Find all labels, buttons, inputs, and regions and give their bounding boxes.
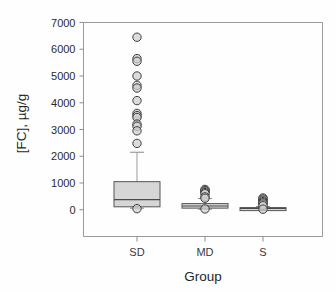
outlier-point-s — [259, 205, 267, 213]
y-tick-label: 0 — [69, 204, 75, 216]
x-tick-label-md: MD — [196, 246, 213, 258]
x-tick-label-s: S — [259, 246, 266, 258]
outlier-point-sd — [133, 96, 141, 104]
y-axis-title: [FC], µg/g — [14, 94, 29, 154]
x-tick-label-sd: SD — [129, 246, 144, 258]
outlier-point-sd — [133, 127, 141, 135]
outlier-point-sd — [133, 72, 141, 80]
y-tick-label: 6000 — [51, 43, 75, 55]
y-tick-label: 5000 — [51, 70, 75, 82]
outlier-point-md — [201, 205, 209, 213]
outlier-point-md — [201, 194, 209, 202]
outlier-point-sd — [133, 84, 141, 92]
y-tick-label: 4000 — [51, 97, 75, 109]
y-tick-label: 3000 — [51, 124, 75, 136]
box-plot-figure: 01000200030004000500060007000[FC], µg/gS… — [0, 0, 336, 292]
outlier-point-sd — [133, 57, 141, 65]
y-tick-label: 1000 — [51, 177, 75, 189]
chart-canvas: 01000200030004000500060007000[FC], µg/gS… — [0, 0, 336, 292]
y-tick-label: 7000 — [51, 17, 75, 29]
outlier-point-sd — [133, 139, 141, 147]
outlier-point-sd — [133, 204, 141, 212]
outlier-point-sd — [133, 33, 141, 41]
box-sd — [114, 182, 160, 207]
y-tick-label: 2000 — [51, 150, 75, 162]
x-axis-title: Group — [184, 269, 222, 284]
